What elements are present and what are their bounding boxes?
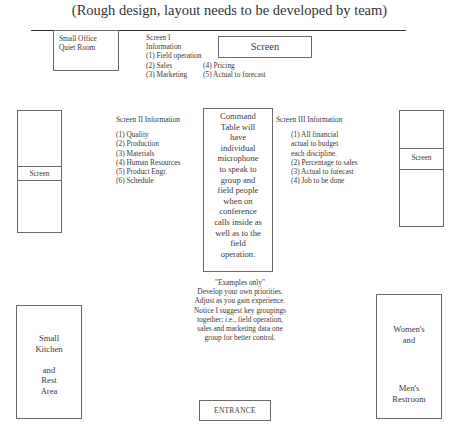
note-line: "Examples only" [150, 278, 330, 287]
command-line: individual [204, 143, 272, 154]
command-line: have [204, 132, 272, 143]
note-line: group for better control. [150, 333, 330, 342]
right-screen: Screen [399, 110, 444, 227]
restroom: Women's and Men's Restroom [376, 294, 442, 419]
note-line: sales and marketing data one [150, 324, 330, 333]
note-line: Develop your own priorities. [150, 287, 330, 296]
kitchen-label: Rest [17, 375, 81, 386]
screen2-heading: Screen II Information [116, 115, 201, 124]
screen2-item: (1) Quality [116, 130, 201, 139]
examples-note: "Examples only" Develop your own priorit… [150, 278, 330, 342]
diagram-title: (Rough design, layout needs to be develo… [0, 2, 459, 19]
screen1-item-2: (2) Sales [146, 61, 172, 70]
command-line: microphone [204, 153, 272, 164]
kitchen-label: and [17, 365, 81, 376]
right-screen-label: Screen [400, 153, 443, 162]
note-line: Notice I suggest key groupings [150, 306, 330, 315]
screen3-item: actual to budget [291, 139, 386, 148]
command-line: conference [204, 206, 272, 217]
screen2-list: (1) Quality (2) Production (3) Materials… [116, 130, 201, 185]
command-line: operation. [204, 249, 272, 260]
restroom-label-3: Men's [377, 383, 441, 394]
right-screen-divider-top [400, 148, 443, 149]
screen1-item-5: (5) Actual to forecast [203, 70, 266, 79]
command-line: when on [204, 196, 272, 207]
screen3-item: (2) Percentage to sales [291, 158, 386, 167]
screen3-heading: Screen III Information [276, 115, 386, 124]
screen3-item: each discipline. [291, 149, 386, 158]
command-line: field [204, 238, 272, 249]
screen1-item-3: (3) Marketing [146, 70, 187, 79]
entrance-label: ENTRANCE [200, 401, 270, 415]
entrance: ENTRANCE [199, 400, 271, 421]
kitchen-label: Area [17, 386, 81, 397]
left-screen: Screen [17, 110, 62, 233]
screen3-info: Screen III Information (1) All financial… [276, 115, 386, 185]
restroom-label-1: Women's [377, 324, 441, 335]
command-line: Table will [204, 122, 272, 133]
command-line: calls inside as [204, 217, 272, 228]
command-line: well as to the [204, 228, 272, 239]
kitchen-label: Kitchen [17, 344, 81, 355]
kitchen-spacer [17, 354, 81, 365]
kitchen-label: Small [17, 333, 81, 344]
restroom-label-4: Restroom [377, 394, 441, 405]
top-screen: Screen [218, 36, 312, 58]
top-screen-label: Screen [219, 37, 311, 54]
screen2-item: (4) Human Resources [116, 158, 201, 167]
left-screen-label: Screen [18, 169, 61, 178]
note-line: together; i.e., field operation, [150, 315, 330, 324]
command-line: to speak to [204, 164, 272, 175]
right-screen-divider-bottom [400, 169, 443, 170]
command-line: Command [204, 111, 272, 122]
command-line: field people [204, 185, 272, 196]
screen1-item-4: (4) Pricing [203, 61, 235, 70]
screen2-item: (2) Production [116, 139, 201, 148]
screen2-item: (3) Materials [116, 149, 201, 158]
restroom-label-2: and [377, 335, 441, 346]
screen3-item: (1) All financial [291, 130, 386, 139]
small-office-quiet-room: Small Office Quiet Room [53, 30, 119, 71]
screen2-info: Screen II Information (1) Quality (2) Pr… [116, 115, 201, 185]
screen2-item: (5) Product Engr. [116, 167, 201, 176]
screen3-item: (3) Actual to forecast [291, 167, 386, 176]
left-screen-divider-top [18, 166, 61, 167]
screen3-item: (4) Job to be done [291, 176, 386, 185]
screen3-list: (1) All financial actual to budget each … [276, 130, 386, 185]
command-line: group and [204, 175, 272, 186]
screen2-item: (6) Schedule [116, 176, 201, 185]
note-line: Adjust as you gain experience. [150, 296, 330, 305]
small-office-label-1: Small Office [59, 34, 118, 43]
command-table: Command Table will have individual micro… [203, 108, 273, 272]
small-office-label-2: Quiet Room [59, 43, 118, 52]
left-screen-divider-bottom [18, 180, 61, 181]
kitchen-rest-area: Small Kitchen and Rest Area [16, 305, 82, 419]
